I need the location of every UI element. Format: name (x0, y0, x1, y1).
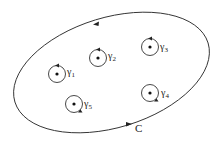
svg-text:γ4: γ4 (160, 87, 169, 100)
contour-c-label: C (135, 122, 142, 134)
svg-text:γ5: γ5 (83, 98, 92, 111)
gamma-1-contour: γ1 (49, 64, 76, 83)
contour-diagram: C γ1 γ2 γ3 γ4 γ5 (0, 0, 223, 144)
contour-c-arrow-top (93, 22, 99, 27)
gamma-5-contour: γ5 (66, 96, 93, 113)
gamma-4-contour: γ4 (142, 85, 170, 102)
svg-text:γ1: γ1 (66, 66, 75, 79)
gamma-3-contour: γ3 (142, 37, 169, 56)
gamma-2-contour: γ2 (90, 48, 117, 67)
contour-c (0, 0, 223, 144)
contour-c-arrow-bottom (126, 122, 132, 127)
svg-text:γ3: γ3 (159, 41, 168, 54)
svg-text:γ2: γ2 (107, 50, 116, 63)
